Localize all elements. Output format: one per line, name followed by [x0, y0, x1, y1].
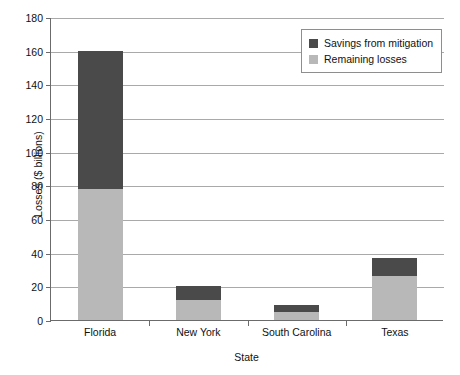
legend-swatch-savings-icon [309, 39, 318, 48]
x-tick-label-florida: Florida [51, 326, 149, 338]
y-tick-label: 60 [31, 214, 43, 226]
y-tick-label: 140 [25, 79, 43, 91]
x-axis-title: State [50, 351, 443, 363]
y-tick-mark [46, 85, 51, 86]
y-tick-mark [46, 287, 51, 288]
y-tick-label: 80 [31, 180, 43, 192]
bar-segment-remaining-losses [372, 276, 417, 320]
y-tick-label: 120 [25, 113, 43, 125]
bar-texas [372, 258, 417, 320]
y-tick-mark [46, 52, 51, 53]
y-tick-mark [46, 186, 51, 187]
y-tick-mark [46, 119, 51, 120]
bar-segment-remaining-losses [78, 189, 123, 320]
y-tick-mark [46, 153, 51, 154]
y-tick-label: 160 [25, 46, 43, 58]
x-tick-label-texas: Texas [346, 326, 444, 338]
y-tick-label: 180 [25, 12, 43, 24]
stacked-bar-chart: Losses ($ billions) 02040608010012014016… [0, 0, 460, 375]
legend-item-remaining: Remaining losses [309, 51, 433, 67]
y-tick-label: 100 [25, 147, 43, 159]
y-tick-label: 0 [37, 315, 43, 327]
bar-segment-remaining-losses [274, 312, 319, 320]
y-tick-label: 40 [31, 248, 43, 260]
bar-new-york [176, 286, 221, 320]
bar-segment-savings-from-mitigation [78, 51, 123, 189]
gridline [51, 18, 444, 19]
legend-label-savings: Savings from mitigation [324, 37, 433, 49]
legend-label-remaining: Remaining losses [324, 53, 407, 65]
y-axis-title: Losses ($ billions) [32, 74, 44, 274]
legend-swatch-remaining-icon [309, 55, 318, 64]
y-tick-mark [46, 18, 51, 19]
y-tick-mark [46, 321, 51, 322]
legend-item-savings: Savings from mitigation [309, 35, 433, 51]
x-tick-label-new-york: New York [149, 326, 247, 338]
bar-south-carolina [274, 305, 319, 320]
x-tick-label-south-carolina: South Carolina [248, 326, 346, 338]
chart-legend: Savings from mitigation Remaining losses [301, 29, 442, 73]
bar-segment-savings-from-mitigation [372, 258, 417, 277]
y-tick-label: 20 [31, 281, 43, 293]
bar-florida [78, 51, 123, 320]
y-tick-mark [46, 220, 51, 221]
bar-segment-savings-from-mitigation [176, 286, 221, 299]
y-tick-mark [46, 254, 51, 255]
bar-segment-remaining-losses [176, 300, 221, 320]
bar-segment-savings-from-mitigation [274, 305, 319, 312]
